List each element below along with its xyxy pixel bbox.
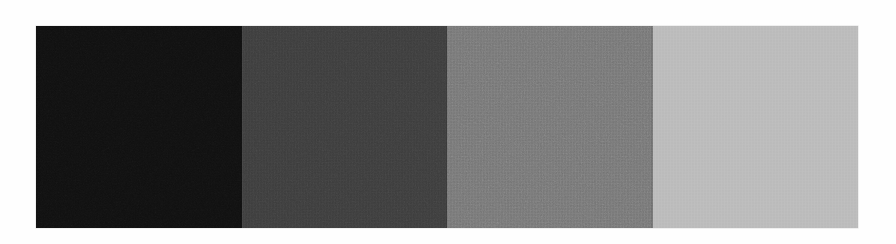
- gray-patch-3: [447, 26, 653, 228]
- weave-texture: [242, 26, 448, 228]
- grain-layer-fine: [36, 26, 242, 228]
- gray-patch-1: [36, 26, 242, 228]
- gray-patch-4: [653, 26, 859, 228]
- grain-layer-coarse: [653, 26, 859, 228]
- grain-layer-coarse: [447, 26, 653, 228]
- weave-texture: [447, 26, 653, 228]
- grain-layer-coarse: [36, 26, 242, 228]
- grain-layer-coarse: [242, 26, 448, 228]
- gray-patch-2: [242, 26, 448, 228]
- grain-layer-fine: [653, 26, 859, 228]
- grain-layer-fine: [447, 26, 653, 228]
- page-canvas: [0, 0, 896, 244]
- grayscale-step-wedge: [36, 26, 858, 228]
- weave-texture: [36, 26, 242, 228]
- grain-layer-fine: [242, 26, 448, 228]
- weave-texture: [653, 26, 859, 228]
